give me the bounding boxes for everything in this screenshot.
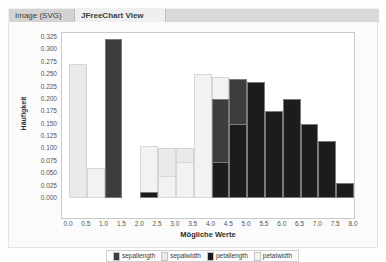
bar-petallength [301, 124, 319, 198]
bar-petallength [212, 162, 230, 198]
chart-panel[interactable]: Häufigkeit 0.0000.0250.0500.0750.1000.12… [8, 22, 378, 248]
bar-petalwidth [176, 162, 194, 198]
y-axis-title: Häufigkeit [20, 84, 27, 144]
bar-petallength [283, 99, 301, 198]
y-axis-tick-label: 0.325 [41, 33, 57, 40]
y-axis-tick-label: 0.250 [41, 70, 57, 77]
y-axis-tick-label: 0.200 [41, 94, 57, 101]
bar-container [69, 37, 354, 198]
x-axis-tick-label: 3.0 [170, 220, 179, 228]
bar-sepallength [105, 39, 123, 198]
x-axis-tick-label: 7.5 [331, 220, 340, 228]
x-axis-tick-label: 2.0 [135, 220, 144, 228]
legend-item-label: petalwidth [263, 252, 292, 260]
tab-bar: Image (SVG) JFreeChart View [8, 8, 379, 23]
x-axis-tick-label: 5.5 [259, 220, 268, 228]
bar-petalwidth [140, 146, 158, 198]
bar-petallength [140, 192, 158, 198]
x-axis-tick-label: 6.0 [277, 220, 286, 228]
y-axis-tick-label: 0.300 [41, 45, 57, 52]
bar-petalwidth [194, 74, 212, 198]
bar-petallength [336, 183, 354, 198]
x-axis-tick-label: 6.5 [295, 220, 304, 228]
y-axis-tick-label: 0.000 [41, 194, 57, 201]
bar-sepalwidth [69, 64, 87, 198]
tab-bar-filler [166, 9, 379, 23]
tab-image-svg-label: Image (SVG) [15, 11, 62, 20]
x-axis-tick-label: 4.0 [206, 220, 215, 228]
bar-petallength [265, 111, 283, 198]
legend-item-label: sepallength [122, 252, 155, 260]
legend-item-label: sepalwidth [170, 252, 201, 260]
y-axis-tick-label: 0.175 [41, 107, 57, 114]
y-axis-tick-label: 0.125 [41, 132, 57, 139]
x-axis-tick-label: 1.5 [117, 220, 126, 228]
y-axis-tick-label: 0.225 [41, 82, 57, 89]
x-axis-tick-label: 1.0 [99, 220, 108, 228]
y-axis-tick-label: 0.050 [41, 169, 57, 176]
y-axis-tick-label: 0.275 [41, 57, 57, 64]
bar-petallength [318, 141, 336, 198]
x-axis-tick-label: 3.5 [188, 220, 197, 228]
legend-item: petalwidth [254, 252, 292, 261]
chart-legend: sepallengthsepalwidthpetallengthpetalwid… [106, 250, 299, 262]
bar-petalwidth [87, 168, 105, 198]
plot-area [61, 32, 355, 219]
tab-image-svg[interactable]: Image (SVG) [9, 9, 75, 23]
legend-item-label: petallength [216, 252, 248, 260]
x-axis-title: Mögliche Werte [61, 230, 355, 239]
legend-swatch-icon [113, 252, 120, 261]
legend-item: sepallength [113, 252, 155, 261]
legend-swatch-icon [254, 252, 261, 261]
bar-petalwidth [158, 176, 176, 198]
x-axis-tick-label: 0.5 [81, 220, 90, 228]
x-axis-tick-label: 4.5 [224, 220, 233, 228]
y-axis-tick-label: 0.100 [41, 144, 57, 151]
x-axis-tick-label: 7.0 [313, 220, 322, 228]
y-axis: Häufigkeit 0.0000.0250.0500.0750.1000.12… [9, 32, 61, 219]
bar-petallength [229, 124, 247, 198]
x-axis-tick-label: 5.0 [242, 220, 251, 228]
x-axis-tick-label: 2.5 [153, 220, 162, 228]
y-axis-tick-label: 0.150 [41, 119, 57, 126]
legend-item: petallength [207, 252, 248, 261]
tab-jfreechart-view[interactable]: JFreeChart View [75, 9, 166, 23]
legend-item: sepalwidth [161, 252, 201, 261]
y-axis-tick-label: 0.075 [41, 156, 57, 163]
x-axis-tick-label: 0.0 [63, 220, 72, 228]
y-axis-tick-label: 0.025 [41, 181, 57, 188]
bar-petallength [247, 82, 265, 198]
x-axis-tick-label: 8.0 [348, 220, 357, 228]
legend-swatch-icon [207, 252, 214, 261]
tab-jfreechart-view-label: JFreeChart View [81, 11, 144, 20]
legend-swatch-icon [161, 252, 168, 261]
